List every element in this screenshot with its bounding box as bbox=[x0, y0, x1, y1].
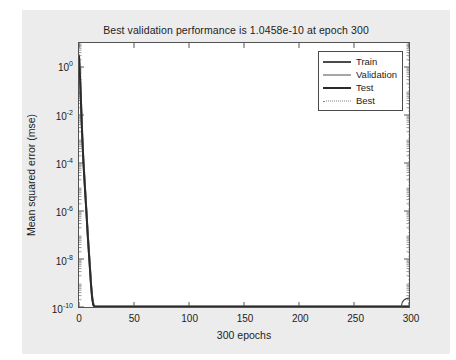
x-axis-label: 300 epochs bbox=[217, 329, 271, 341]
y-tick-mantissa: 10 bbox=[56, 207, 67, 218]
y-tick-label: 10-10 bbox=[52, 304, 73, 315]
y-tick-label: 10-6 bbox=[56, 207, 73, 218]
legend-swatch-validation bbox=[323, 70, 351, 80]
legend-label-train: Train bbox=[356, 56, 377, 67]
y-tick-label: 100 bbox=[58, 62, 73, 73]
figure-panel: Best validation performance is 1.0458e-1… bbox=[22, 10, 450, 354]
x-tick-label: 100 bbox=[181, 313, 198, 324]
y-tick-mantissa: 10 bbox=[58, 62, 69, 73]
x-tick-label: 200 bbox=[292, 313, 309, 324]
y-tick-label: 10-4 bbox=[56, 158, 73, 169]
y-tick-exponent: -2 bbox=[67, 109, 73, 116]
legend-swatch-best bbox=[323, 96, 351, 106]
y-tick-exponent: -8 bbox=[67, 254, 73, 261]
y-tick-exponent: -6 bbox=[67, 205, 73, 212]
y-tick-label: 10-2 bbox=[56, 110, 73, 121]
plot-axes: Train Validation Test Best Mean squared … bbox=[78, 42, 410, 308]
y-tick-label: 10-8 bbox=[56, 255, 73, 266]
y-tick-exponent: -10 bbox=[63, 302, 73, 309]
y-tick-mantissa: 10 bbox=[56, 255, 67, 266]
legend-item-validation[interactable]: Validation bbox=[323, 68, 397, 81]
legend-swatch-train bbox=[323, 57, 351, 67]
legend-label-validation: Validation bbox=[356, 69, 397, 80]
legend-swatch-test bbox=[323, 83, 351, 93]
y-tick-exponent: 0 bbox=[69, 60, 73, 67]
plot-title: Best validation performance is 1.0458e-1… bbox=[22, 24, 450, 36]
legend-label-test: Test bbox=[356, 82, 373, 93]
legend-item-test[interactable]: Test bbox=[323, 81, 397, 94]
x-tick-label: 0 bbox=[76, 313, 82, 324]
legend-label-best: Best bbox=[356, 95, 375, 106]
plot-legend: Train Validation Test Best bbox=[318, 51, 403, 111]
y-tick-exponent: -4 bbox=[67, 157, 73, 164]
x-tick-label: 250 bbox=[347, 313, 364, 324]
y-axis-label: Mean squared error (mse) bbox=[25, 114, 37, 236]
x-tick-label: 50 bbox=[129, 313, 140, 324]
y-tick-mantissa: 10 bbox=[56, 158, 67, 169]
x-tick-label: 150 bbox=[237, 313, 254, 324]
legend-item-best[interactable]: Best bbox=[323, 94, 397, 107]
y-tick-mantissa: 10 bbox=[52, 304, 63, 315]
y-tick-mantissa: 10 bbox=[56, 110, 67, 121]
legend-item-train[interactable]: Train bbox=[323, 55, 397, 68]
x-tick-label: 300 bbox=[403, 313, 420, 324]
